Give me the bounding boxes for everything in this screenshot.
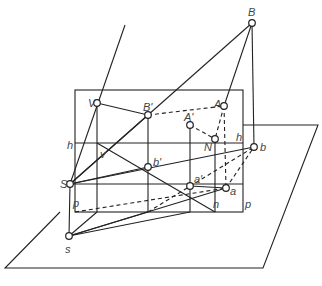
- point-b-prime: [145, 164, 152, 171]
- label-s: s: [65, 243, 71, 255]
- label-v: v: [100, 148, 107, 160]
- point-S: [67, 181, 74, 188]
- sight-S-bp: [70, 167, 148, 184]
- line-s-vground: [69, 212, 97, 236]
- line-ap-a: [190, 186, 226, 188]
- label-h-right: h: [236, 131, 242, 143]
- vertical-a-hidden: [224, 106, 226, 188]
- label-N: N: [204, 141, 212, 153]
- label-A: A: [213, 98, 221, 110]
- point-a: [223, 185, 230, 192]
- line-a-b: [226, 147, 254, 188]
- label-n: n: [213, 198, 219, 210]
- point-B: [249, 20, 256, 27]
- point-s: [66, 233, 73, 240]
- line-V-Bp: [97, 103, 148, 115]
- label-p-right: p: [244, 198, 251, 210]
- label-b-prime: b': [153, 156, 162, 168]
- line-p-a: [75, 188, 226, 212]
- vertical-s: [69, 184, 70, 236]
- label-B-prime: B': [143, 101, 153, 113]
- label-a-prime: a': [194, 173, 203, 185]
- label-B: B: [248, 6, 255, 18]
- label-a: a: [230, 185, 236, 197]
- point-N: [212, 136, 219, 143]
- line-s-ap: [69, 212, 190, 236]
- perspective-diagram: B A N V B' A' h h v b' b S a' a p n p s: [0, 0, 322, 286]
- label-b: b: [260, 141, 266, 153]
- ground-plane: [5, 125, 318, 268]
- label-A-prime: A': [183, 111, 194, 123]
- vertical-b: [252, 23, 254, 147]
- label-p-left: p: [72, 197, 79, 209]
- line-A-N: [215, 106, 224, 139]
- point-A: [221, 103, 228, 110]
- line-Ap-N: [190, 125, 215, 139]
- label-S: S: [60, 178, 68, 190]
- point-b: [251, 144, 258, 151]
- label-h-left: h: [67, 139, 73, 151]
- point-a-prime: [187, 183, 194, 190]
